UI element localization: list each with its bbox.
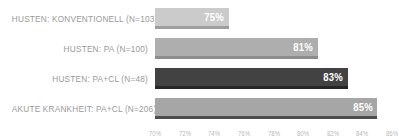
x-axis-tick-label: 74% — [208, 130, 220, 137]
horizontal-bar-chart: HUSTEN: KONVENTIONELL (N=103)75%HUSTEN: … — [0, 0, 399, 139]
bar: 75% — [155, 8, 229, 29]
bar-track: 81% — [155, 38, 392, 59]
x-axis-row: 70%72%74%76%78%80%82%84%86% — [0, 128, 399, 139]
x-axis-tick-label: 80% — [297, 130, 309, 137]
x-axis-tick-label: 70% — [149, 130, 161, 137]
bar: 83% — [155, 68, 348, 89]
x-axis-tick-label: 82% — [327, 130, 339, 137]
x-axis-tick-label: 72% — [179, 130, 191, 137]
bar-value-label: 75% — [205, 12, 229, 23]
bar-track: 83% — [155, 68, 392, 89]
x-axis-tick-label: 78% — [268, 130, 280, 137]
chart-row: HUSTEN: PA+CL (N=48)83% — [0, 68, 399, 89]
chart-row: HUSTEN: PA (N=100)81% — [0, 38, 399, 59]
axis-label-spacer — [0, 128, 148, 139]
x-axis-tick-label: 84% — [356, 130, 368, 137]
bar-track: 75% — [155, 8, 392, 29]
x-axis-ticks: 70%72%74%76%78%80%82%84%86% — [155, 128, 392, 139]
x-axis-tick-label: 86% — [386, 130, 398, 137]
bar-value-label: 81% — [294, 42, 318, 53]
category-label: HUSTEN: KONVENTIONELL (N=103) — [12, 14, 148, 24]
bar: 81% — [155, 38, 318, 59]
chart-rows: HUSTEN: KONVENTIONELL (N=103)75%HUSTEN: … — [0, 8, 399, 119]
chart-row: AKUTE KRANKHEIT: PA+CL (N=206)85% — [0, 98, 399, 119]
bar-value-label: 83% — [323, 72, 347, 83]
bar-value-label: 85% — [353, 102, 377, 113]
bar: 85% — [155, 98, 377, 119]
category-label: HUSTEN: PA (N=100) — [12, 44, 148, 54]
category-label: HUSTEN: PA+CL (N=48) — [12, 74, 148, 84]
chart-row: HUSTEN: KONVENTIONELL (N=103)75% — [0, 8, 399, 29]
bar-track: 85% — [155, 98, 392, 119]
category-label: AKUTE KRANKHEIT: PA+CL (N=206) — [12, 104, 148, 114]
x-axis-tick-label: 76% — [238, 130, 250, 137]
